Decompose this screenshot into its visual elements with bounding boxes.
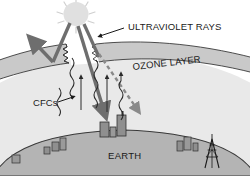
label-ultraviolet-rays: ULTRAVIOLET RAYS [128,21,222,32]
ozone-depletion-diagram: ULTRAVIOLET RAYS OZONE LAYER CFCs EARTH [0,0,250,176]
label-cfcs: CFCs [33,97,58,108]
label-earth: EARTH [108,150,142,161]
